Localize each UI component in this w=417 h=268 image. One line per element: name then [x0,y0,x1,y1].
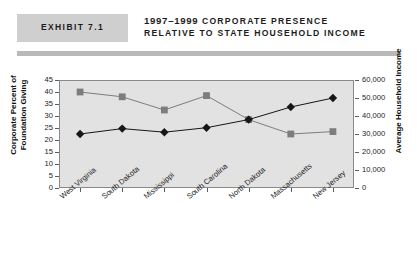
right-tick-mark [355,188,359,189]
right-tick-label: 10,000 [362,166,396,174]
right-tick-mark [355,80,359,81]
data-point-diamond [76,130,84,138]
data-point-square [203,92,210,99]
right-tick-mark [355,98,359,99]
data-point-diamond [160,128,168,136]
data-point-diamond [329,94,337,102]
exhibit-number-badge: EXHIBIT 7.1 [17,14,128,42]
right-tick-label: 40,000 [362,112,396,120]
chart-region: Corporate Percent of Foundation Giving A… [0,60,417,268]
page-title-line-1: 1997–1999 CORPORATE PRESENCE [144,15,409,27]
data-point-square [77,89,84,96]
right-tick-label: 60,000 [362,76,396,84]
page-title-years: 1997–1999 [144,15,198,26]
right-tick-mark [355,170,359,171]
exhibit-header: EXHIBIT 7.1 1997–1999 CORPORATE PRESENCE… [0,0,417,56]
page-title: 1997–1999 CORPORATE PRESENCE RELATIVE TO… [144,15,409,39]
left-tick-label: 35 [31,100,53,108]
exhibit-number-label: EXHIBIT 7.1 [17,22,128,32]
x-tick-mark [333,188,334,192]
left-tick-mark [55,188,59,189]
data-point-diamond [202,124,210,132]
x-tick-mark [249,188,250,192]
right-tick-label: 30,000 [362,130,396,138]
data-point-square [161,107,168,114]
right-tick-mark [355,116,359,117]
right-tick-label: 0 [362,184,396,192]
data-point-diamond [118,124,126,132]
right-tick-label: 50,000 [362,94,396,102]
left-axis-title: Corporate Percent of Foundation Giving [9,65,29,165]
page-title-line-1-rest: CORPORATE PRESENCE [198,16,328,26]
data-point-square [119,93,126,100]
left-tick-label: 5 [31,172,53,180]
left-tick-label: 25 [31,124,53,132]
left-tick-label: 40 [31,88,53,96]
x-tick-mark [122,188,123,192]
x-tick-mark [164,188,165,192]
left-tick-label: 10 [31,160,53,168]
left-tick-label: 15 [31,148,53,156]
x-tick-mark [207,188,208,192]
data-point-square [330,128,337,135]
left-tick-label: 30 [31,112,53,120]
data-point-diamond [287,103,295,111]
right-tick-mark [355,152,359,153]
x-tick-mark [80,188,81,192]
series-plot [59,80,354,188]
right-tick-mark [355,134,359,135]
header-divider [17,51,400,56]
x-tick-mark [291,188,292,192]
left-tick-label: 0 [31,184,53,192]
page-title-line-2: RELATIVE TO STATE HOUSEHOLD INCOME [144,27,409,39]
data-point-square [287,131,294,138]
left-tick-label: 45 [31,76,53,84]
left-tick-label: 20 [31,136,53,144]
right-tick-label: 20,000 [362,148,396,156]
